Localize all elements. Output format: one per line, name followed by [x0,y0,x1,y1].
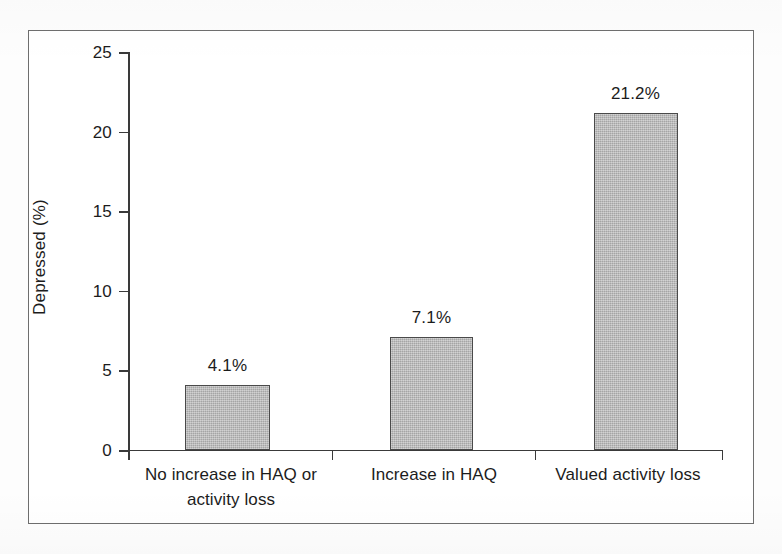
y-tick-mark-5 [119,370,128,372]
y-tick-label-25: 25 [12,44,112,61]
y-tick-label-20-wrap: 20 [8,124,112,141]
bar-value-label-2: 7.1% [371,309,492,326]
y-tick-label-5-wrap: 5 [8,362,112,379]
y-tick-mark-15 [119,211,128,213]
bar-value-label-3: 21.2% [575,85,696,102]
x-category-label-1-line-1: No increase in HAQ or [120,462,342,487]
x-tick-mark-left [128,450,130,460]
x-tick-mark-1 [332,450,334,460]
x-category-label-2-line-1: Increase in HAQ [336,462,532,487]
bar-no-increase-in-haq-or-activity-loss[interactable] [185,385,270,450]
y-tick-label-10: 10 [12,283,112,300]
y-axis-line [128,52,130,451]
x-category-label-1-line-2: activity loss [120,487,342,512]
y-tick-mark-20 [119,132,128,134]
x-tick-mark-right [722,450,724,460]
y-tick-mark-0 [119,450,128,452]
bar-value-label-1: 4.1% [167,357,288,374]
x-category-label-3: Valued activity loss [532,462,724,487]
y-tick-label-25-wrap: 25 [8,44,112,61]
y-tick-label-20: 20 [12,124,112,141]
y-tick-label-5: 5 [12,362,112,379]
x-category-label-2: Increase in HAQ [336,462,532,487]
chart-screenshot: Depressed (%) 25 20 15 10 5 0 [0,0,782,554]
y-tick-label-15-wrap: 15 [8,203,112,220]
x-category-label-1: No increase in HAQ or activity loss [120,462,342,512]
x-tick-mark-2 [535,450,537,460]
bar-increase-in-haq[interactable] [390,337,473,450]
bar-valued-activity-loss[interactable] [594,113,678,451]
y-tick-label-10-wrap: 10 [8,283,112,300]
y-axis-title: Depressed (%) [30,157,50,357]
y-tick-label-0-wrap: 0 [8,442,112,459]
plot-area: Depressed (%) 25 20 15 10 5 0 [0,0,782,554]
y-tick-label-0: 0 [12,442,112,459]
y-tick-label-15: 15 [12,203,112,220]
y-tick-mark-25 [119,52,128,54]
x-category-label-3-line-1: Valued activity loss [532,462,724,487]
y-tick-mark-10 [119,291,128,293]
